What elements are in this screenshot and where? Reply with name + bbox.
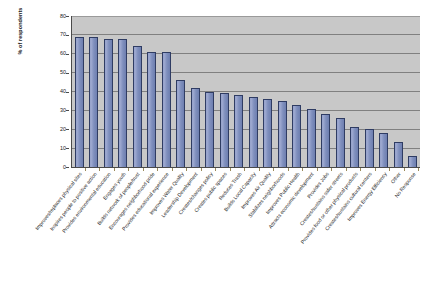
bar[interactable] bbox=[292, 105, 301, 167]
bar[interactable] bbox=[176, 80, 185, 167]
bar-slot[interactable] bbox=[87, 16, 102, 167]
bar[interactable] bbox=[205, 92, 214, 168]
bar-slot[interactable] bbox=[232, 16, 247, 167]
bar[interactable] bbox=[234, 95, 243, 167]
bar[interactable] bbox=[394, 142, 403, 167]
bar-slot[interactable] bbox=[174, 16, 189, 167]
y-axis-tick-mark bbox=[66, 92, 69, 93]
bar[interactable] bbox=[75, 37, 84, 167]
y-axis-title: % of respondents bbox=[14, 0, 26, 76]
bar[interactable] bbox=[220, 93, 229, 167]
bar-slot[interactable] bbox=[246, 16, 261, 167]
bar-slot[interactable] bbox=[290, 16, 305, 167]
x-axis-tick-label: Improves/replaces physical sites bbox=[0, 171, 83, 285]
y-axis-tick-mark bbox=[66, 16, 69, 17]
bar[interactable] bbox=[133, 46, 142, 167]
y-axis-tick-mark bbox=[66, 54, 69, 55]
bar[interactable] bbox=[336, 118, 345, 167]
bar[interactable] bbox=[162, 52, 171, 167]
bar-chart: % of respondents 01020304050607080 Impro… bbox=[0, 0, 429, 285]
bar-slot[interactable] bbox=[261, 16, 276, 167]
y-axis-tick-mark bbox=[66, 167, 69, 168]
bar[interactable] bbox=[89, 37, 98, 167]
bar[interactable] bbox=[249, 97, 258, 167]
bar-slot[interactable] bbox=[333, 16, 348, 167]
bar-slot[interactable] bbox=[319, 16, 334, 167]
x-axis-tick-labels: Improves/replaces physical sitesInspires… bbox=[71, 171, 419, 271]
y-axis-tick-labels: 01020304050607080 bbox=[52, 10, 69, 173]
bar[interactable] bbox=[350, 127, 359, 167]
bar[interactable] bbox=[278, 101, 287, 167]
plot-area bbox=[71, 16, 420, 168]
bar-slot[interactable] bbox=[101, 16, 116, 167]
bar-slot[interactable] bbox=[159, 16, 174, 167]
bar-slot[interactable] bbox=[188, 16, 203, 167]
bar-slot[interactable] bbox=[406, 16, 421, 167]
bar-slot[interactable] bbox=[377, 16, 392, 167]
bar-slot[interactable] bbox=[275, 16, 290, 167]
bar-slot[interactable] bbox=[72, 16, 87, 167]
bar-slot[interactable] bbox=[391, 16, 406, 167]
bar-slot[interactable] bbox=[348, 16, 363, 167]
y-axis-tick-mark bbox=[66, 35, 69, 36]
bar-slot[interactable] bbox=[116, 16, 131, 167]
bars-layer bbox=[72, 16, 420, 167]
bar-slot[interactable] bbox=[145, 16, 160, 167]
bar-slot[interactable] bbox=[362, 16, 377, 167]
y-axis-tick-mark bbox=[66, 110, 69, 111]
bar[interactable] bbox=[365, 129, 374, 167]
y-axis-tick-mark bbox=[66, 73, 69, 74]
y-axis-tick-mark bbox=[66, 129, 69, 130]
bar[interactable] bbox=[408, 156, 417, 167]
bar[interactable] bbox=[191, 88, 200, 167]
bar[interactable] bbox=[321, 114, 330, 167]
bar-slot[interactable] bbox=[217, 16, 232, 167]
bar-slot[interactable] bbox=[130, 16, 145, 167]
bar[interactable] bbox=[307, 109, 316, 168]
bar[interactable] bbox=[379, 133, 388, 167]
bar[interactable] bbox=[118, 39, 127, 167]
y-axis-tick-mark bbox=[66, 148, 69, 149]
bar-slot[interactable] bbox=[203, 16, 218, 167]
bar-slot[interactable] bbox=[304, 16, 319, 167]
bar[interactable] bbox=[104, 39, 113, 167]
bar[interactable] bbox=[263, 99, 272, 167]
bar[interactable] bbox=[147, 52, 156, 167]
